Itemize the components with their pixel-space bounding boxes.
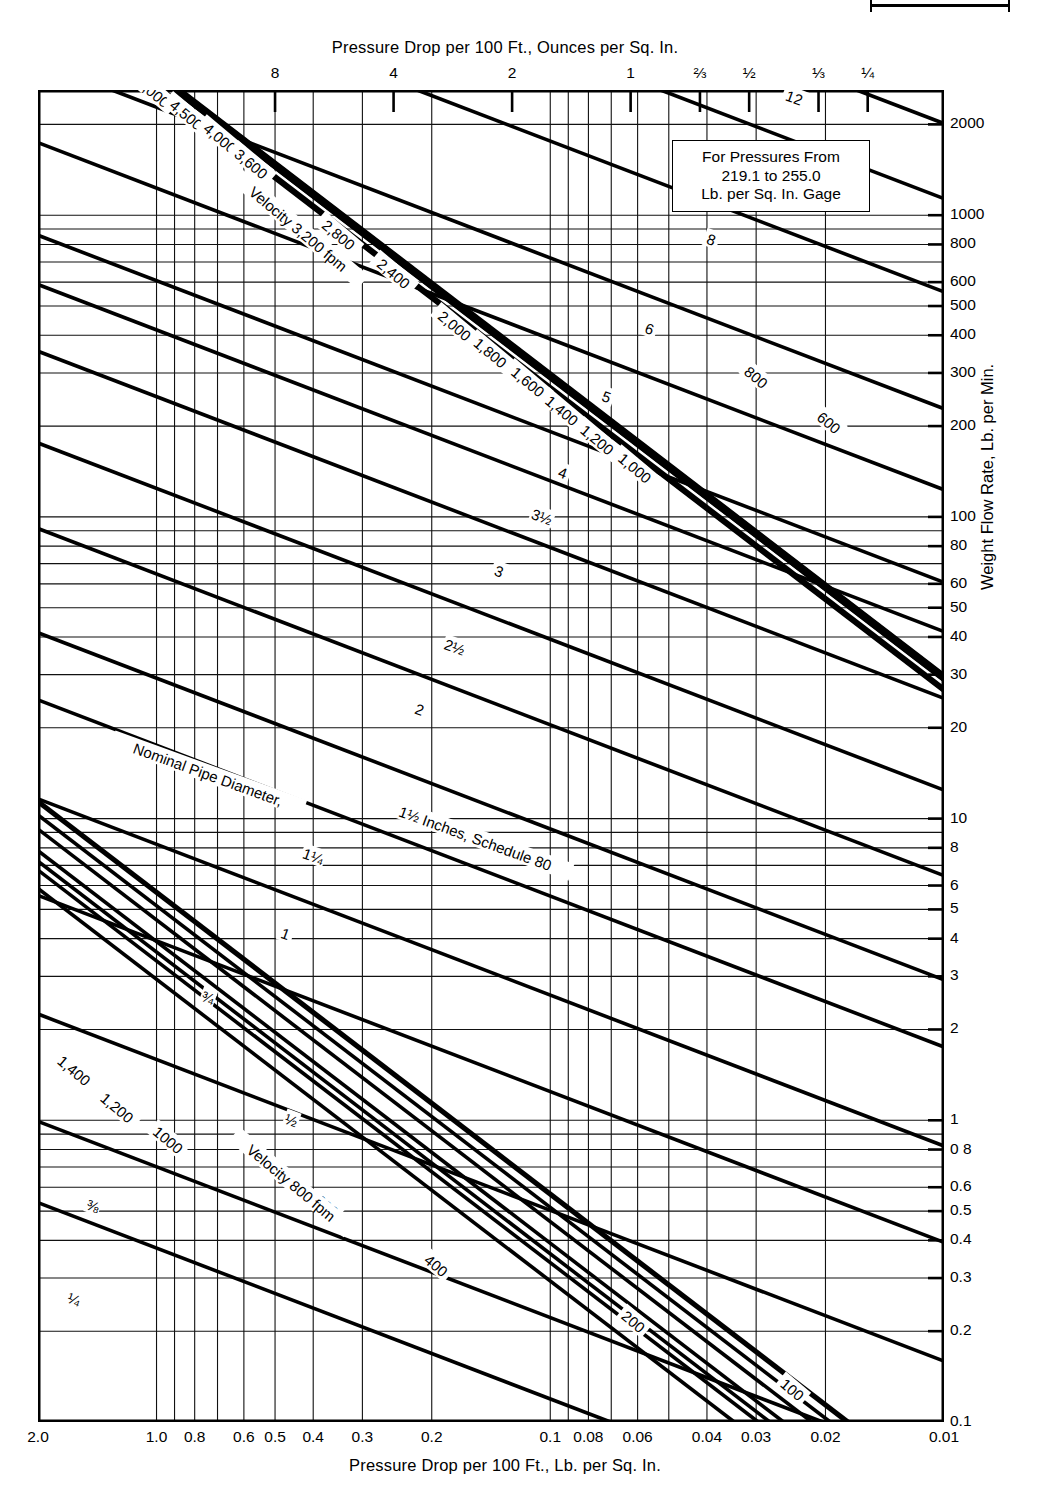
top-axis-tick-label: ⅔ [693, 64, 706, 82]
pipe-diameter-label: 4 [553, 461, 573, 483]
pipe-diameter-label: 8 [701, 228, 721, 250]
x-axis-tick-label: 0.6 [233, 1428, 255, 1446]
y-axis-tick-label: 0.3 [950, 1268, 972, 1286]
y-axis-tick-label: 500 [950, 296, 976, 314]
x-axis-tick-label: 0.04 [692, 1428, 722, 1446]
pipe-diameter-line [38, 633, 944, 980]
pipe-diameter-line [38, 895, 944, 1242]
y-axis-tick-label: 30 [950, 665, 967, 683]
x-axis-tick-label: 0.01 [929, 1428, 959, 1446]
top-axis-tick-label: ¼ [861, 64, 874, 82]
pipe-diameter-label: 5 [596, 385, 616, 407]
nominal-pipe-diameter-caption: Nominal Pipe Diameter, [109, 730, 307, 817]
pipe-diameter-label: ¼ [64, 1288, 84, 1310]
rule-line [870, 4, 1010, 7]
pipe-diameter-label: 1 [276, 922, 296, 944]
y-axis-tick-label: 8 [950, 838, 959, 856]
pipe-diameter-label: 3 [489, 560, 509, 582]
y-axis-tick-label: 0.2 [950, 1321, 972, 1339]
top-axis-tick-label: 8 [271, 64, 280, 82]
y-axis-tick-label: 300 [950, 363, 976, 381]
pressure-range-note: For Pressures From 219.1 to 255.0 Lb. pe… [672, 140, 870, 212]
x-axis-tick-label: 0.02 [810, 1428, 840, 1446]
x-axis-tick-label: 0.5 [264, 1428, 286, 1446]
y-axis-tick-label: 0 8 [950, 1140, 972, 1158]
curve-label-text: ¼ [65, 1289, 83, 1309]
pipe-diameter-line [857, 90, 944, 123]
curve-label-text: Velocity 800 fpm [244, 1141, 339, 1225]
y-axis-tick-label: 10 [950, 809, 967, 827]
y-axis-tick-label: 5 [950, 899, 959, 917]
velocity-line [38, 801, 849, 1422]
note-line-2: 219.1 to 255.0 [721, 167, 820, 186]
pipe-diameter-label: ½ [281, 1109, 301, 1131]
x-axis-tick-label: 0.1 [539, 1428, 561, 1446]
curve-label-text: 1½ Inches, Schedule 80 [397, 803, 554, 874]
y-axis-tick-label: 4 [950, 929, 959, 947]
x-axis-tick-label: 0.08 [573, 1428, 603, 1446]
velocity-label: 600 [811, 405, 848, 440]
y-axis-tick-label: 2 [950, 1019, 959, 1037]
velocity-label: 1,400 [49, 1047, 100, 1094]
page-edge-rule [870, 0, 1010, 10]
y-axis-tick-label: 800 [950, 234, 976, 252]
y-axis-tick-label: 40 [950, 627, 967, 645]
y-axis-tick-label: 0.6 [950, 1177, 972, 1195]
y-axis-tick-label: 1000 [950, 205, 984, 223]
curve-label-text: Nominal Pipe Diameter, [131, 739, 285, 809]
y-axis-tick-label: 600 [950, 272, 976, 290]
y-axis-tick-label: 50 [950, 598, 967, 616]
x-axis-tick-label: 0.03 [741, 1428, 771, 1446]
top-axis-tick-label: 4 [389, 64, 398, 82]
pipe-diameter-line [38, 351, 944, 698]
top-axis-tick-label: ½ [743, 64, 756, 82]
nomograph-svg: ¼⅜¾11¼22½33½4568101214½1½ Inches, Schedu… [38, 90, 944, 1422]
rule-tick-right [1008, 0, 1010, 12]
y-axis-tick-label: 3 [950, 966, 959, 984]
x-axis-tick-label: 0.4 [302, 1428, 324, 1446]
curve-label-text: ⅜ [84, 1196, 102, 1216]
x-axis-tick-label: 0.3 [352, 1428, 374, 1446]
y-axis-tick-label: 2000 [950, 114, 984, 132]
pipe-diameter-line [38, 443, 944, 790]
x-axis-title: Pressure Drop per 100 Ft., Lb. per Sq. I… [0, 1456, 1010, 1475]
x-axis-tick-label: 0.2 [421, 1428, 443, 1446]
top-axis-tick-label: 1 [626, 64, 635, 82]
y-axis-tick-label: 6 [950, 876, 959, 894]
pipe-diameter-label: 2½ [440, 634, 469, 659]
pipe-diameter-label: 1¼ [299, 843, 328, 868]
y-axis-tick-label: 100 [950, 507, 976, 525]
note-line-3: Lb. per Sq. In. Gage [701, 185, 841, 204]
y-axis-tick-label: 200 [950, 416, 976, 434]
y-axis-tick-label: 0.4 [950, 1230, 972, 1248]
velocity-label: 1,200 [92, 1084, 143, 1131]
note-line-1: For Pressures From [702, 148, 840, 167]
velocity-line [38, 888, 734, 1422]
velocity-label: 1000 [147, 1119, 191, 1160]
pipe-diameter-label: 12 [780, 90, 809, 110]
curve-label-text: ½ [282, 1110, 300, 1130]
y-axis-tick-label: 20 [950, 718, 967, 736]
velocity-caption-low: Velocity 800 fpm [228, 1127, 355, 1237]
nomograph-plot-area: ¼⅜¾11¼22½33½4568101214½1½ Inches, Schedu… [38, 90, 944, 1422]
top-axis-tick-label: ⅓ [812, 64, 825, 82]
x-axis-tick-label: 0.8 [184, 1428, 206, 1446]
y-axis-title: Weight Flow Rate, Lb. per Min. [978, 290, 997, 590]
x-axis-tick-label: 2.0 [27, 1428, 49, 1446]
pipe-diameter-label: ⅜ [83, 1194, 103, 1216]
y-axis-tick-label: 1 [950, 1110, 959, 1128]
top-axis-title: Pressure Drop per 100 Ft., Ounces per Sq… [0, 38, 1010, 57]
pipe-diameter-label: 2 [409, 698, 429, 720]
y-axis-tick-label: 0.5 [950, 1201, 972, 1219]
x-axis-tick-label: 0.06 [623, 1428, 653, 1446]
top-axis-tick-label: 2 [508, 64, 517, 82]
velocity-line [38, 861, 770, 1422]
y-axis-tick-label: 80 [950, 536, 967, 554]
y-axis-tick-label: 400 [950, 325, 976, 343]
x-axis-tick-label: 1.0 [146, 1428, 168, 1446]
pipe-diameter-label: 6 [639, 317, 659, 339]
pipe-diameter-label: 3½ [528, 504, 557, 529]
y-axis-tick-label: 60 [950, 574, 967, 592]
